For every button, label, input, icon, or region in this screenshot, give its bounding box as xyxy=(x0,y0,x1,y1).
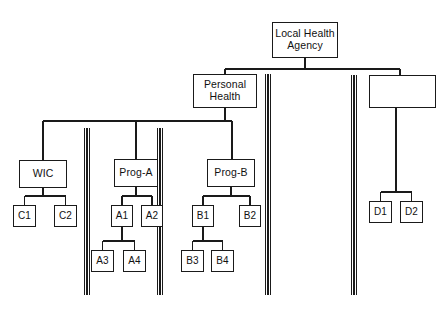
node-b3: B3 xyxy=(181,250,204,272)
node-blank xyxy=(369,75,436,108)
node-proga: Prog-A xyxy=(114,159,158,187)
divider-3 xyxy=(266,74,270,295)
node-a3: A3 xyxy=(91,250,114,272)
node-a2: A2 xyxy=(141,205,163,227)
org-chart-diagram: Local Health AgencyPersonal HealthWICPro… xyxy=(0,0,445,319)
node-b4: B4 xyxy=(211,250,234,272)
node-b2: B2 xyxy=(239,205,261,227)
node-c2: C2 xyxy=(54,205,77,227)
divider-1 xyxy=(85,128,89,295)
node-d1: D1 xyxy=(369,201,392,223)
node-b1: B1 xyxy=(192,205,214,227)
node-wic: WIC xyxy=(19,160,67,188)
divider-4 xyxy=(352,75,356,295)
node-a4: A4 xyxy=(123,250,146,272)
node-lha: Local Health Agency xyxy=(272,22,338,58)
node-d2: D2 xyxy=(400,201,423,223)
node-a1: A1 xyxy=(111,205,133,227)
node-c1: C1 xyxy=(13,205,36,227)
node-ph: Personal Health xyxy=(193,74,257,108)
node-progb: Prog-B xyxy=(207,159,255,187)
